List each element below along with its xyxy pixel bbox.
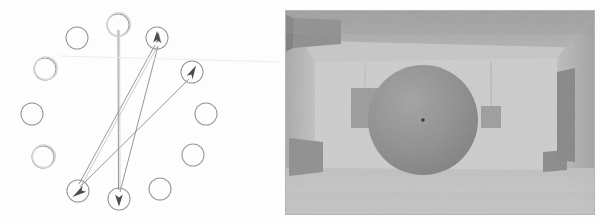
- rendered-room-image: [285, 10, 595, 215]
- smudge-n9: [32, 145, 55, 168]
- arrowhead-down-n7: [115, 194, 123, 206]
- edge-group: [79, 30, 189, 192]
- figure-container: [0, 0, 600, 224]
- node-n10[interactable]: [21, 103, 43, 125]
- node-n4[interactable]: [195, 103, 217, 125]
- scan-crease-line: [60, 56, 280, 62]
- smudge-n11: [34, 57, 57, 80]
- diagram-canvas: [0, 0, 280, 224]
- node-n12[interactable]: [66, 27, 88, 49]
- edge-n8-n2: [79, 45, 155, 184]
- film-grain-overlay: [285, 10, 595, 215]
- node-arrow-diagram: [0, 0, 280, 224]
- scan-smudge-group: [32, 13, 130, 168]
- edge-n8-n2-ghost: [81, 47, 157, 186]
- edge-n1-n7: [118, 30, 119, 190]
- edge-n8-n3: [80, 79, 189, 187]
- room-canvas: [285, 10, 595, 215]
- node-group: [21, 14, 217, 210]
- edge-n7-n2: [120, 46, 158, 192]
- smudge-n1: [107, 13, 130, 36]
- arrowhead-up-n3: [187, 66, 196, 80]
- node-n6[interactable]: [149, 178, 171, 200]
- node-n5[interactable]: [182, 144, 204, 166]
- arrowhead-down-n8: [73, 186, 87, 197]
